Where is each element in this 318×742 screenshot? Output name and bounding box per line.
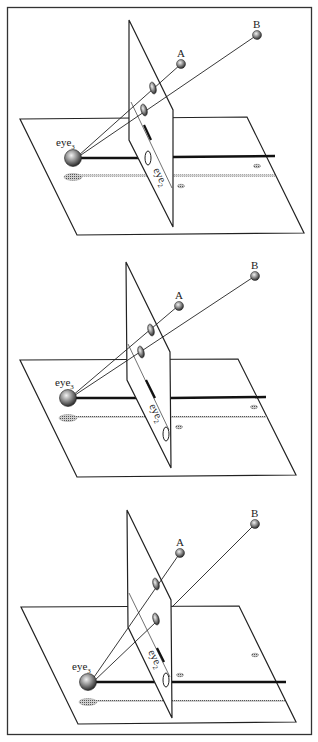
baseline-right xyxy=(171,397,266,398)
shadow-point-b xyxy=(252,653,259,657)
shadow-line xyxy=(80,175,275,177)
eye3-shadow xyxy=(64,174,82,181)
eye2-marker xyxy=(145,151,151,165)
eye2-marker xyxy=(163,673,169,687)
baseline-right xyxy=(173,156,275,157)
panel-2: A B eye3 eye2 xyxy=(20,259,296,477)
object-a xyxy=(177,60,186,69)
label-a: A xyxy=(175,289,183,301)
label-b: B xyxy=(251,259,258,271)
eye3-sphere xyxy=(80,674,97,691)
object-a xyxy=(175,302,184,311)
eye3-shadow xyxy=(79,699,97,706)
label-b: B xyxy=(253,18,260,30)
eye3-sphere xyxy=(60,390,77,407)
shadow-point-a xyxy=(177,673,184,677)
panel-3: A B eye3 eye2 xyxy=(21,507,296,724)
shadow-line xyxy=(95,700,285,702)
eye3-sphere xyxy=(65,150,82,167)
figure-three-panels: A B eye3 eye2 A B eye3 eye2 xyxy=(0,0,318,742)
sight-line-b xyxy=(172,524,255,607)
object-b xyxy=(251,272,260,281)
shadow-point-a xyxy=(176,425,183,429)
shadow-point-b xyxy=(254,164,261,168)
panel-1: A B eye3 eye2 xyxy=(20,18,304,235)
label-a: A xyxy=(176,536,184,548)
label-a: A xyxy=(177,47,185,59)
label-b: B xyxy=(251,507,258,519)
object-b xyxy=(251,520,260,529)
object-b xyxy=(253,31,262,40)
shadow-point-b xyxy=(251,405,258,409)
object-a xyxy=(176,549,185,558)
eye3-shadow xyxy=(59,415,77,422)
shadow-point-a xyxy=(178,184,185,188)
eye2-marker xyxy=(163,427,169,441)
